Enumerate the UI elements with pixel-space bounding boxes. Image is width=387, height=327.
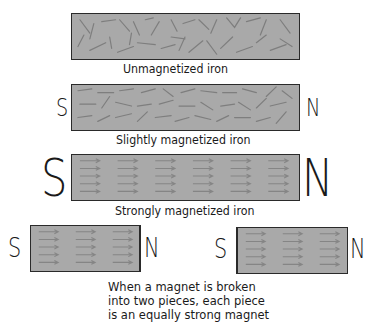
broken-magnet-caption: When a magnet is broken into two pieces,… — [108, 280, 269, 322]
panel-label-unmagnetized: Unmagnetized iron — [123, 62, 228, 76]
partially-aligned-domains-icon — [72, 85, 299, 130]
north-pole-label: N — [144, 235, 160, 261]
north-pole-label: N — [302, 152, 333, 204]
aligned-domains-icon — [238, 228, 347, 273]
broken-left-piece — [30, 225, 141, 272]
north-pole-label: N — [306, 96, 320, 120]
panel-label-strongly: Strongly magnetized iron — [115, 204, 254, 218]
south-pole-label: S — [41, 152, 67, 204]
south-pole-label: S — [56, 96, 68, 120]
random-domains-icon — [72, 14, 299, 59]
caption-line: When a magnet is broken — [108, 280, 269, 294]
aligned-domains-icon — [31, 226, 139, 271]
caption-line: is an equally strong magnet — [108, 308, 269, 322]
strongly-magnetized-iron-bar — [71, 154, 300, 201]
broken-right-piece — [236, 227, 348, 274]
unmagnetized-iron-bar — [71, 13, 300, 60]
caption-line: into two pieces, each piece — [108, 294, 269, 308]
north-pole-label: N — [350, 236, 366, 262]
slightly-magnetized-iron-bar — [71, 84, 300, 131]
south-pole-label: S — [8, 235, 21, 261]
south-pole-label: S — [214, 236, 227, 262]
panel-label-slightly: Slightly magnetized iron — [116, 133, 251, 147]
aligned-domains-icon — [72, 155, 299, 200]
